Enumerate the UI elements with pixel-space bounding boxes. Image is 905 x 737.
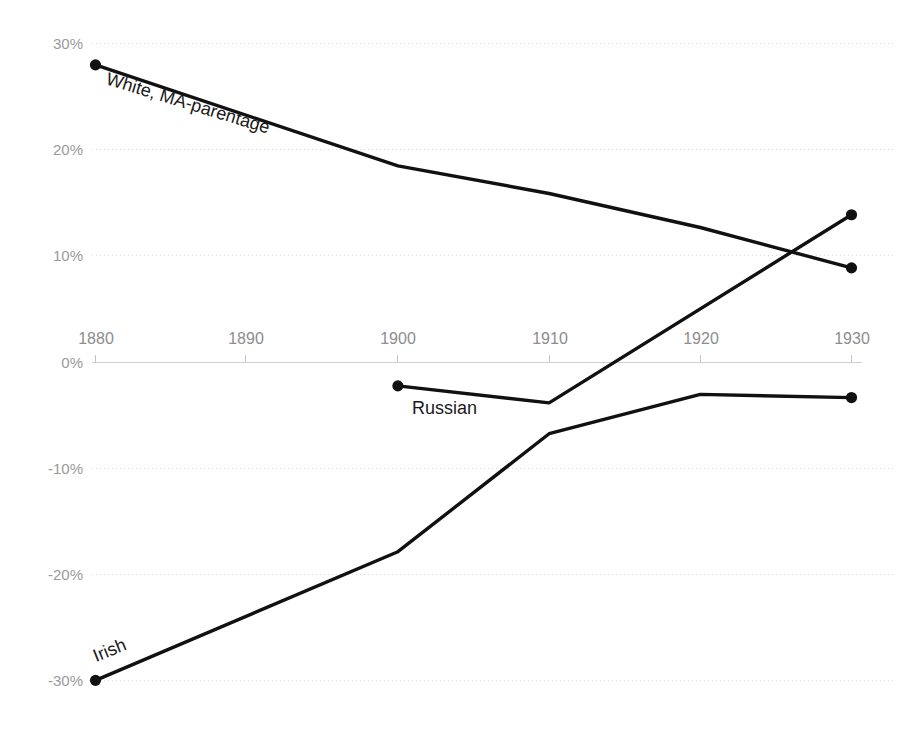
x-tick-label-1910: 1910 bbox=[532, 330, 568, 347]
x-tick-label-1890: 1890 bbox=[228, 330, 264, 347]
series-line bbox=[96, 394, 852, 680]
series-label-white: White, MA-parentage bbox=[104, 69, 272, 138]
y-tick-label-m20: -20% bbox=[48, 566, 83, 583]
data-point-marker bbox=[846, 392, 857, 403]
series-line bbox=[96, 65, 852, 268]
chart-canvas: 30% 20% 10% 0% -10% -20% -30% 1880 1890 … bbox=[0, 0, 905, 737]
series-layer bbox=[90, 59, 857, 686]
x-axis bbox=[92, 355, 862, 363]
series-russian bbox=[392, 209, 857, 403]
series-irish bbox=[90, 392, 857, 686]
y-tick-label-m10: -10% bbox=[48, 460, 83, 477]
series-labels: White, MA-parentage Russian Irish bbox=[90, 69, 477, 666]
y-tick-label-10: 10% bbox=[53, 247, 83, 264]
series-white-ma-parentage bbox=[90, 59, 857, 273]
x-axis-labels: 1880 1890 1900 1910 1920 1930 bbox=[78, 330, 870, 347]
y-axis-labels: 30% 20% 10% 0% -10% -20% -30% bbox=[48, 35, 83, 689]
series-label-russian: Russian bbox=[412, 398, 477, 418]
data-point-marker bbox=[392, 380, 403, 391]
data-point-marker bbox=[846, 209, 857, 220]
y-tick-label-30: 30% bbox=[53, 35, 83, 52]
series-label-irish: Irish bbox=[90, 634, 129, 665]
line-chart: 30% 20% 10% 0% -10% -20% -30% 1880 1890 … bbox=[0, 0, 905, 737]
data-point-marker bbox=[846, 262, 857, 273]
x-tick-label-1930: 1930 bbox=[834, 330, 870, 347]
y-tick-label-0: 0% bbox=[61, 354, 83, 371]
x-tick-label-1880: 1880 bbox=[78, 330, 114, 347]
data-point-marker bbox=[90, 59, 101, 70]
y-tick-label-m30: -30% bbox=[48, 672, 83, 689]
series-line bbox=[398, 215, 852, 403]
y-tick-label-20: 20% bbox=[53, 141, 83, 158]
x-tick-label-1900: 1900 bbox=[380, 330, 416, 347]
x-tick-label-1920: 1920 bbox=[683, 330, 719, 347]
data-point-marker bbox=[90, 675, 101, 686]
